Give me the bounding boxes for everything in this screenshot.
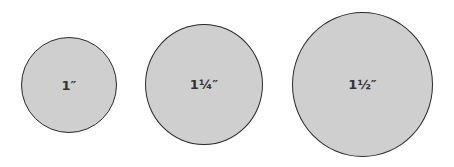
circle-label: 1″ bbox=[62, 78, 77, 93]
circle-1-inch: 1″ bbox=[21, 37, 117, 133]
circle-label: 1½″ bbox=[348, 77, 376, 92]
circle-label: 1¼″ bbox=[190, 77, 218, 92]
circle-1-quarter-inch: 1¼″ bbox=[145, 24, 263, 145]
circle-1-half-inch: 1½″ bbox=[292, 12, 433, 157]
